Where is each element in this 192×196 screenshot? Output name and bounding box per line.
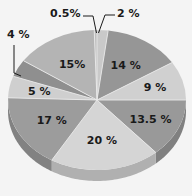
callout-label-2-percent: 2 % — [117, 7, 140, 20]
pie-slice-label: 20 % — [87, 134, 117, 147]
pie-slice-label: 5 % — [28, 85, 51, 98]
pie-chart-figure: 14 %9 %13.5 %20 %17 %5 %15% 0.5% 2 % 4 % — [0, 0, 192, 196]
pie-slice-label: 15% — [59, 58, 85, 71]
pie-slice-label: 17 % — [37, 114, 67, 127]
pie-chart-svg: 14 %9 %13.5 %20 %17 %5 %15% 0.5% 2 % 4 % — [0, 0, 192, 196]
pie-slice-label: 13.5 % — [130, 113, 172, 126]
callout-label-0-5-percent: 0.5% — [50, 7, 81, 20]
pie-slice-label: 9 % — [144, 81, 167, 94]
callout-label-4-percent: 4 % — [7, 28, 30, 41]
pie-slice-label: 14 % — [111, 59, 141, 72]
